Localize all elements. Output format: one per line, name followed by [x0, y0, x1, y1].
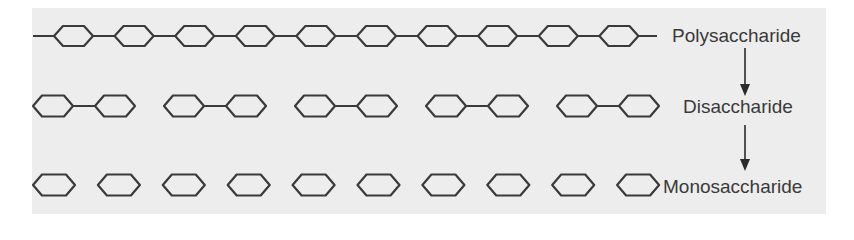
- sugar-ring-icon: [557, 96, 597, 117]
- sugar-ring-icon: [488, 96, 528, 117]
- sugar-ring-icon: [617, 175, 659, 196]
- arrow-di-to-mono: [740, 125, 750, 171]
- sugar-ring-icon: [358, 175, 400, 196]
- sugar-ring-icon: [228, 175, 270, 196]
- sugar-ring-icon: [552, 175, 594, 196]
- sugar-ring-icon: [295, 96, 335, 117]
- sugar-ring-icon: [619, 96, 659, 117]
- sugar-ring-icon: [163, 175, 205, 196]
- arrow-poly-to-di: [740, 48, 750, 96]
- disaccharide-row: [33, 96, 659, 117]
- sugar-ring-icon: [95, 96, 135, 117]
- sugar-ring-icon: [33, 175, 75, 196]
- sugar-ring-icon: [33, 96, 73, 117]
- monosaccharide-label: Monosaccharide: [663, 177, 802, 196]
- monosaccharide-row: [33, 175, 659, 196]
- sugar-ring-icon: [293, 175, 335, 196]
- sugar-ring-icon: [426, 96, 466, 117]
- sugar-ring-icon: [164, 96, 204, 117]
- disaccharide-label: Disaccharide: [683, 97, 793, 116]
- sugar-ring-icon: [357, 96, 397, 117]
- polysaccharide-label: Polysaccharide: [672, 26, 801, 45]
- sugar-ring-icon: [98, 175, 140, 196]
- sugar-ring-icon: [487, 175, 529, 196]
- polysaccharide-chain: [33, 26, 657, 46]
- sugar-ring-icon: [226, 96, 266, 117]
- sugar-ring-icon: [422, 175, 464, 196]
